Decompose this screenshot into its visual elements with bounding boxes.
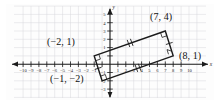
x-tick-label: −8	[36, 68, 42, 73]
vertex-label-left: (−2, 1)	[47, 36, 75, 47]
x-axis-label: x	[209, 61, 213, 67]
x-tick-label: −2	[84, 68, 90, 73]
y-axis-label: y	[111, 4, 115, 10]
y-tick-label: 3	[103, 29, 106, 34]
vertex-label-top-right: (7, 4)	[150, 11, 172, 22]
y-tick-label: 4	[103, 21, 106, 26]
x-tick-label: 10	[187, 68, 192, 73]
x-axis-left-arrow	[12, 62, 18, 67]
figure-container: −10 −9 −8 −7 −6 −5 −4 −3 −2 −1 1 2 3 4 5…	[0, 0, 220, 104]
y-tick-label: 1	[103, 45, 106, 50]
vertex-label-bottom: (−1, −2)	[50, 73, 84, 84]
vertex-label-right: (8, 1)	[179, 50, 201, 61]
y-axis-bottom-arrow	[108, 92, 113, 98]
x-tick-label: −9	[29, 68, 35, 73]
y-tick-label: 2	[103, 37, 106, 42]
x-axis-right-arrow	[202, 62, 208, 67]
y-tick-label: 5	[103, 12, 106, 17]
y-tick-label: −3	[101, 87, 107, 92]
x-tick-label: −10	[20, 68, 28, 73]
